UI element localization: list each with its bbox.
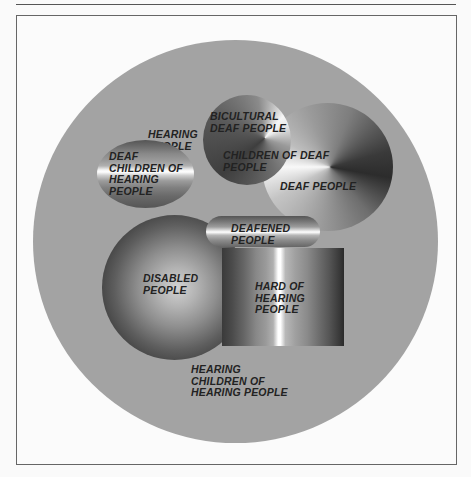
label-children-of-deaf-people: CHILDREN OF DEAF PEOPLE	[223, 150, 329, 173]
label-disabled-people: DISABLED PEOPLE	[143, 273, 198, 296]
label-deaf-people: DEAF PEOPLE	[280, 181, 356, 193]
label-hard-of-hearing-people: HARD OF HEARING PEOPLE	[255, 281, 305, 316]
label-hearing-children-of-hearing-people: HEARING CHILDREN OF HEARING PEOPLE	[191, 364, 288, 399]
header-rule	[16, 4, 456, 5]
label-bicultural-deaf-people: BICULTURAL DEAF PEOPLE	[210, 111, 286, 134]
label-deafened-people: DEAFENED PEOPLE	[231, 223, 290, 246]
label-deaf-children-of-hearing-people: DEAF CHILDREN OF HEARING PEOPLE	[109, 151, 183, 197]
